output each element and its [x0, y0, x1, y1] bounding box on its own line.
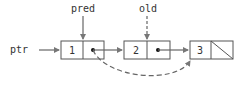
node-3-value: 3 — [197, 45, 203, 56]
node-2-value: 2 — [133, 45, 139, 56]
node-3: 3 — [190, 41, 233, 59]
ptr-label: ptr — [10, 44, 28, 55]
pred-label: pred — [71, 3, 95, 14]
linked-list-diagram: ptr pred old 1 2 3 — [0, 0, 249, 87]
node-1-value: 1 — [69, 45, 75, 56]
old-label: old — [139, 3, 157, 14]
